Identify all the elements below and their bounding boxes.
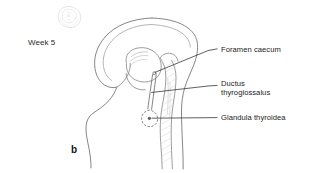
pharynx-foregut-tube	[160, 53, 178, 169]
panel-letter: b	[71, 145, 77, 154]
label-ductus-line2: thyroglossalus	[221, 88, 270, 97]
label-foramen-caecum: Foramen caecum	[221, 45, 281, 54]
label-foramen-caecum-line1: Foramen caecum	[221, 45, 281, 54]
embryo-sketch-icon	[58, 6, 81, 27]
label-ductus-thyroglossalus: Ductus thyroglossalus	[221, 79, 270, 98]
thyroglossal-duct	[148, 72, 156, 110]
leader-line-glandula	[152, 118, 218, 119]
tongue-and-oral-floor	[117, 48, 161, 90]
label-glandula-line1: Glandula thyroidea	[221, 113, 286, 122]
head-neck-outline	[86, 18, 198, 169]
pharynx-shading	[161, 61, 176, 164]
label-glandula-thyroidea: Glandula thyroidea	[221, 113, 286, 122]
stage-caption: Week 5	[28, 38, 55, 47]
cranial-vault-inner-line	[103, 25, 190, 81]
label-ductus-line1: Ductus	[221, 79, 270, 88]
leader-line-ductus	[151, 86, 208, 93]
